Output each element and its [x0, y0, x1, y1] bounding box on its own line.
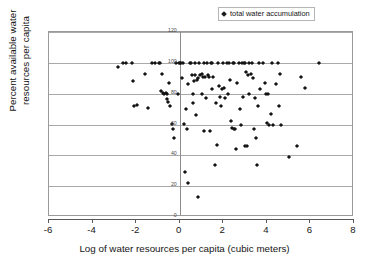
data-point	[303, 85, 307, 89]
data-point	[210, 87, 214, 91]
x-tick-mark-4	[266, 219, 267, 223]
data-point	[229, 119, 233, 123]
x-tick-label--2: -2	[123, 224, 147, 235]
data-point	[287, 155, 291, 159]
x-tick-label-6: 6	[297, 224, 321, 235]
y-tick-label-20: 20	[163, 183, 177, 188]
data-point	[260, 61, 264, 65]
data-point	[277, 104, 281, 108]
data-point	[299, 75, 303, 79]
data-point	[160, 72, 164, 76]
data-point	[186, 82, 190, 86]
data-point	[251, 76, 255, 80]
data-point	[158, 61, 162, 65]
data-point	[204, 96, 208, 100]
gridline-y-20	[49, 186, 352, 187]
y-tick-label-0: 0	[163, 213, 177, 218]
data-point	[218, 95, 222, 99]
x-tick-label-8: 8	[341, 224, 365, 235]
data-point	[143, 72, 147, 76]
data-point	[269, 112, 273, 116]
data-point	[131, 79, 135, 83]
data-point	[191, 101, 195, 105]
data-point	[124, 61, 128, 65]
gridline-y-60	[49, 125, 352, 126]
data-point	[295, 144, 299, 148]
data-point	[216, 61, 220, 65]
data-point	[238, 107, 242, 111]
data-point	[196, 195, 200, 199]
data-point	[266, 92, 270, 96]
data-point	[185, 127, 189, 131]
data-point	[276, 61, 280, 65]
data-point	[212, 162, 216, 166]
data-point	[183, 170, 187, 174]
data-point	[222, 85, 226, 89]
data-point	[135, 103, 139, 107]
data-point	[186, 181, 190, 185]
y-tick-label-40: 40	[163, 152, 177, 157]
data-point	[219, 104, 223, 108]
data-point	[228, 78, 232, 82]
scatter-chart: total water accumulation 120100806040200…	[0, 0, 369, 269]
x-tick-label-0: 0	[167, 224, 191, 235]
data-point	[241, 95, 245, 99]
data-point	[211, 75, 215, 79]
data-point	[215, 142, 219, 146]
legend-diamond-marker	[221, 11, 227, 17]
data-point	[279, 122, 283, 126]
data-point	[130, 61, 134, 65]
y-axis-title: Percent available water resources per ca…	[7, 0, 32, 154]
data-point	[253, 96, 257, 100]
x-tick-mark-8	[353, 219, 354, 223]
data-point	[270, 61, 274, 65]
x-tick-label-4: 4	[254, 224, 278, 235]
data-point	[263, 81, 267, 85]
data-point	[226, 92, 230, 96]
x-tick-label--6: -6	[36, 224, 60, 235]
data-point	[199, 92, 203, 96]
data-point	[232, 61, 236, 65]
data-point	[278, 72, 282, 76]
data-point	[171, 127, 175, 131]
x-tick-mark-0	[179, 219, 180, 223]
x-tick-label--4: -4	[80, 224, 104, 235]
data-point	[168, 104, 172, 108]
data-point	[210, 61, 214, 65]
x-axis-title: Log of water resources per capita (cubic…	[0, 243, 369, 255]
data-point	[181, 61, 185, 65]
y-tick-label-60: 60	[163, 121, 177, 126]
data-point	[256, 104, 260, 108]
gridline-y-120	[49, 32, 352, 33]
data-point	[234, 147, 238, 151]
y-axis-title-line-2: resources per capita	[19, 16, 32, 105]
data-point	[172, 136, 176, 140]
gridline-y-40	[49, 155, 352, 156]
data-point	[223, 96, 227, 100]
data-point	[247, 92, 251, 96]
data-point	[249, 61, 253, 65]
data-point	[254, 136, 258, 140]
x-tick-mark--4	[92, 219, 93, 223]
x-tick-mark-2	[222, 219, 223, 223]
data-point	[214, 101, 218, 105]
data-point	[233, 127, 237, 131]
x-tick-mark--2	[135, 219, 136, 223]
y-axis-title-line-1: Percent available water	[7, 10, 20, 112]
data-point	[191, 92, 195, 96]
y-tick-label-100: 100	[163, 59, 177, 64]
plot-area	[48, 31, 353, 216]
y-tick-label-120: 120	[163, 28, 177, 33]
data-point	[273, 82, 277, 86]
legend-label-total-water-accumulation: total water accumulation	[230, 9, 310, 19]
x-tick-mark--6	[48, 219, 49, 223]
data-point	[245, 144, 249, 148]
chart-legend: total water accumulation	[218, 7, 315, 21]
data-point	[255, 162, 259, 166]
data-point	[317, 61, 321, 65]
data-point	[208, 129, 212, 133]
data-point	[184, 107, 188, 111]
data-point	[194, 113, 198, 117]
data-point	[202, 129, 206, 133]
data-point	[252, 127, 256, 131]
